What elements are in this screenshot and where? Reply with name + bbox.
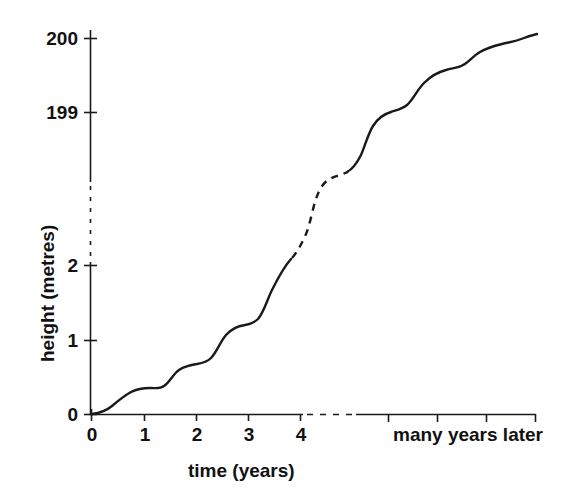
x-tick-label-3: 3 — [229, 425, 269, 444]
x-tick-label-2: 2 — [177, 425, 217, 444]
growth-curve-lower-solid — [92, 259, 291, 414]
x-axis-title: time (years) — [188, 461, 295, 480]
y-axis-title: height (metres) — [38, 225, 57, 362]
chart-plot-area — [0, 0, 574, 497]
chart-figure: 200 199 2 1 0 0 1 2 3 4 many years later… — [0, 0, 574, 497]
x-tick-label-0: 0 — [72, 425, 112, 444]
y-tick-label-200: 200 — [14, 29, 78, 48]
y-tick-label-0: 0 — [14, 405, 78, 424]
y-tick-label-199: 199 — [14, 103, 78, 122]
x-tick-label-4: 4 — [281, 425, 321, 444]
x-axis-many-years-later-note: many years later — [393, 425, 543, 444]
growth-curve-upper-solid — [347, 34, 537, 172]
x-tick-label-1: 1 — [125, 425, 165, 444]
growth-curve-break-dashed — [292, 172, 348, 258]
